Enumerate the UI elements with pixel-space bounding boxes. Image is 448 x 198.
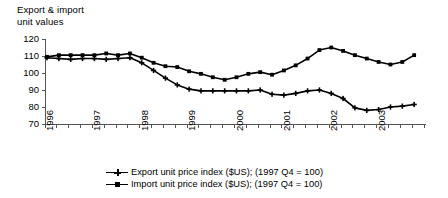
legend-item-import: Import unit price index ($US); (1997 Q4 … xyxy=(106,178,323,190)
x-tick-label: 1997 xyxy=(91,110,102,131)
series-marker-square xyxy=(246,72,250,76)
series-marker-square xyxy=(389,63,393,67)
y-tick-label: 110 xyxy=(24,50,39,61)
legend-marker-square-icon xyxy=(106,178,128,190)
series-marker-plus xyxy=(68,57,73,62)
series-marker-plus xyxy=(210,88,215,93)
x-tick-label: 1999 xyxy=(186,110,197,131)
series-marker-plus xyxy=(222,88,227,93)
x-tick-label: 2000 xyxy=(234,110,245,131)
series-marker-square xyxy=(282,69,286,73)
chart-legend: Export unit price index ($US); (1997 Q4 … xyxy=(106,166,323,190)
series-marker-square xyxy=(152,61,156,65)
series-marker-square xyxy=(140,56,144,60)
series-marker-plus xyxy=(400,104,405,109)
y-tick-label: 100 xyxy=(23,67,39,78)
x-tick-label: 1996 xyxy=(44,110,55,131)
series-marker-square xyxy=(128,52,132,56)
x-tick-label: 2001 xyxy=(281,110,292,131)
legend-label-export: Export unit price index ($US); (1997 Q4 … xyxy=(131,166,323,178)
series-marker-square xyxy=(235,75,239,79)
series-line-import xyxy=(47,48,414,80)
series-marker-plus xyxy=(281,93,286,98)
series-marker-plus xyxy=(317,87,322,92)
series-marker-square xyxy=(199,72,203,76)
series-marker-square xyxy=(104,52,108,56)
x-tick-label: 2002 xyxy=(328,110,339,131)
series-marker-square xyxy=(116,53,120,57)
series-marker-plus xyxy=(388,104,393,109)
series-marker-square xyxy=(57,53,61,57)
series-marker-plus xyxy=(293,91,298,96)
y-tick-label: 90 xyxy=(28,84,39,95)
series-marker-plus xyxy=(258,87,263,92)
series-marker-plus xyxy=(246,88,251,93)
series-marker-plus xyxy=(305,88,310,93)
series-marker-square xyxy=(294,63,298,67)
x-tick-label: 1998 xyxy=(139,110,150,131)
chart-series xyxy=(44,46,416,113)
series-marker-square xyxy=(211,75,215,79)
series-marker-square xyxy=(258,70,262,74)
series-marker-plus xyxy=(329,91,334,96)
series-marker-square xyxy=(377,60,381,64)
series-marker-plus xyxy=(269,92,274,97)
series-marker-plus xyxy=(104,57,109,62)
series-marker-square xyxy=(164,64,168,68)
series-marker-plus xyxy=(412,102,417,107)
series-marker-plus xyxy=(364,108,369,113)
series-marker-square xyxy=(329,46,333,50)
legend-label-import: Import unit price index ($US); (1997 Q4 … xyxy=(131,178,322,190)
series-marker-square xyxy=(223,78,227,82)
series-marker-plus xyxy=(187,87,192,92)
series-marker-square xyxy=(341,49,345,53)
series-marker-square xyxy=(175,65,179,69)
series-marker-square xyxy=(412,53,416,57)
series-marker-square xyxy=(353,53,357,57)
series-marker-square xyxy=(400,60,404,64)
series-marker-square xyxy=(92,53,96,57)
series-marker-plus xyxy=(234,88,239,93)
chart-axes: 1201101009080701996199719981999200020012… xyxy=(23,33,426,131)
series-marker-square xyxy=(306,57,310,61)
series-marker-plus xyxy=(198,88,203,93)
series-line-export xyxy=(47,58,414,111)
chart-figure: Export & import unit values 120110100908… xyxy=(0,0,448,198)
series-marker-square xyxy=(69,53,73,57)
legend-item-export: Export unit price index ($US); (1997 Q4 … xyxy=(106,166,323,178)
series-marker-square xyxy=(81,53,85,57)
series-marker-square xyxy=(187,69,191,73)
series-marker-square xyxy=(270,73,274,77)
series-marker-plus xyxy=(127,55,132,60)
series-marker-square xyxy=(45,55,49,59)
legend-marker-plus-icon xyxy=(106,166,128,178)
y-tick-label: 70 xyxy=(28,118,39,129)
series-marker-square xyxy=(318,48,322,52)
y-tick-label: 120 xyxy=(23,33,39,44)
series-marker-square xyxy=(365,57,369,61)
y-tick-label: 80 xyxy=(28,101,39,112)
x-tick-label: 2003 xyxy=(376,110,387,131)
